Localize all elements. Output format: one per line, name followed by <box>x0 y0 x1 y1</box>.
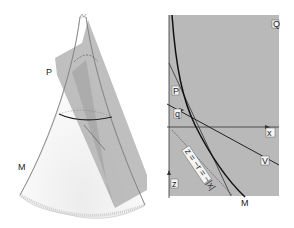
label-x: x <box>267 128 272 138</box>
label-m2: M <box>241 198 249 208</box>
label-v: V <box>262 156 268 166</box>
region-q <box>169 15 279 196</box>
label-z: z <box>172 179 177 189</box>
cone-diagram: P M <box>18 14 147 218</box>
figure-canvas: P M Q P q x V z M z = −r = − <box>0 0 294 228</box>
label-p: P <box>46 67 52 77</box>
label-q: Q <box>273 19 280 29</box>
cross-section-diagram: Q P q x V z M z = −r = −|x| <box>167 15 280 208</box>
label-p2: P <box>173 86 179 96</box>
label-point-q: q <box>175 109 180 119</box>
label-m: M <box>18 162 26 172</box>
cone-tip <box>80 14 86 17</box>
